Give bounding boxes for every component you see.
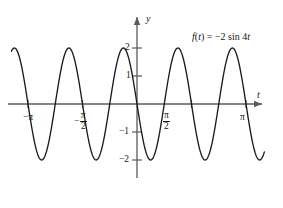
fraction: π 2 <box>80 111 87 132</box>
fraction-denominator: 2 <box>164 122 169 132</box>
amplitude-value: −2 <box>215 31 228 42</box>
trig-variable: t <box>247 31 250 42</box>
y-axis-group <box>134 17 140 178</box>
function-annotation: f(t) = −2 sin 4t <box>192 32 250 42</box>
y-tick-label-1: 1 <box>126 71 131 81</box>
fraction-numerator: π <box>163 111 170 122</box>
equals-sign: = <box>204 31 215 42</box>
x-tick-label-pi: π <box>240 113 245 123</box>
x-tick-label-minus-pi: −π <box>23 113 33 123</box>
x-tick-label-pi-over-2: π 2 <box>163 111 170 132</box>
graph-figure: y t 2 1 −1 −2 −π − π 2 π 2 π f(t) = −2 s… <box>0 0 283 208</box>
x-axis-group <box>8 101 262 107</box>
y-axis-arrowhead <box>134 17 140 25</box>
fraction-numerator: π <box>80 111 87 122</box>
fraction-denominator: 2 <box>81 122 86 132</box>
x-axis-label: t <box>257 90 260 100</box>
y-tick-label-minus-2: −2 <box>119 155 129 165</box>
x-axis-arrowhead <box>254 101 262 107</box>
trig-function-name: sin <box>228 31 242 42</box>
y-axis-label: y <box>146 14 150 24</box>
fraction: π 2 <box>163 111 170 132</box>
y-tick-label-minus-1: −1 <box>119 127 129 137</box>
x-tick-label-minus-pi-over-2: − π 2 <box>74 111 87 132</box>
minus-sign: − <box>74 117 79 127</box>
y-tick-label-2: 2 <box>125 43 130 53</box>
